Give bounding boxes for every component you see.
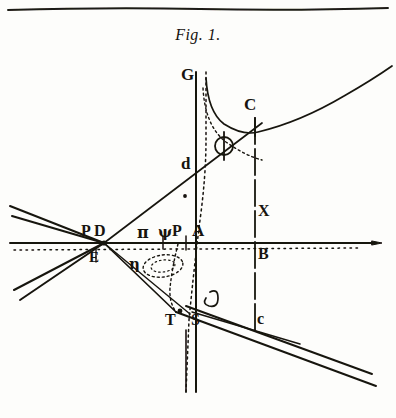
label-pi: π (137, 225, 149, 241)
label-eta: η (129, 257, 140, 272)
label-A: A (192, 222, 204, 239)
lower-ray-outer (176, 312, 376, 386)
label-D: D (94, 223, 106, 239)
ink-dot-under-d (183, 194, 187, 198)
ray-node-to-S (104, 243, 190, 314)
horizontal-axis-arrow (372, 241, 382, 245)
oblique-secant-main (104, 123, 262, 243)
lower-ray-inner (186, 306, 372, 374)
label-B: B (258, 246, 269, 262)
figure-title: Fig. 1. (0, 26, 396, 44)
label-C-upper: C (244, 96, 256, 113)
page-rule (8, 8, 388, 10)
hyperbola-upper-branch (206, 66, 392, 133)
label-X: X (258, 203, 270, 219)
label-G: G (181, 66, 194, 83)
label-c-lower: c (257, 311, 264, 327)
label-S: S (191, 312, 200, 328)
label-P-left: P (81, 223, 91, 239)
label-P-centre: P (172, 223, 182, 239)
lower-node-blob (178, 309, 183, 314)
small-dotted-ellipse (142, 252, 185, 279)
ray-node-to-T (104, 243, 176, 312)
figure-drawing (0, 0, 396, 418)
horizontal-axis-dotted (14, 248, 360, 250)
small-dotted-ellipse-inner (150, 258, 175, 273)
dotted-descender (170, 244, 178, 312)
label-E: E (89, 250, 99, 265)
engraved-plate: Fig. 1. G C Φ d X P D π ψ P A B E η δ T … (0, 0, 396, 418)
label-T: T (165, 312, 176, 328)
left-node-blob (101, 240, 106, 245)
label-psi: ψ (158, 225, 172, 240)
s-to-ordinate-connector (192, 312, 300, 344)
label-d: d (181, 155, 190, 172)
